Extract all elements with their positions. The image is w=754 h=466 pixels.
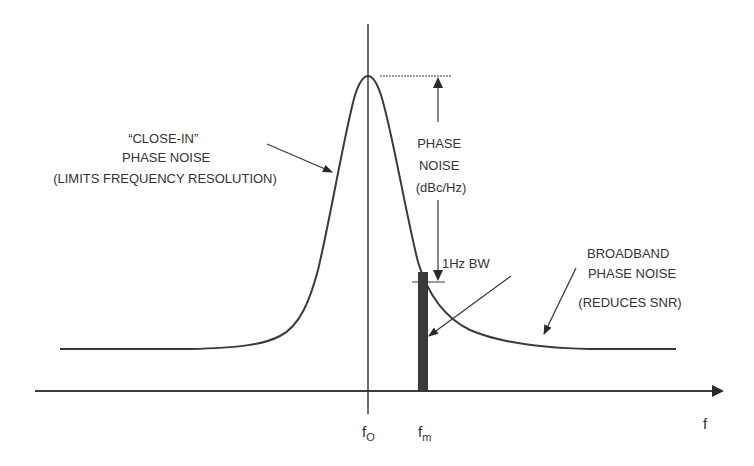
phase-noise-label: PHASE NOISE (dBc/Hz) [416, 136, 467, 195]
broadband-note: (REDUCES SNR) [578, 295, 681, 310]
offset-frequency-label: fm [418, 423, 431, 443]
frequency-axis-arrow-icon [712, 385, 724, 397]
arrow-down-icon [433, 270, 443, 281]
bandwidth-label: 1Hz BW [442, 256, 490, 271]
bandwidth-bar [418, 272, 428, 391]
broadband-label: BROADBAND PHASE NOISE [587, 246, 676, 281]
arrow-up-icon [433, 77, 443, 88]
carrier-frequency-label: fO [362, 423, 375, 443]
close-in-label: “CLOSE-IN” PHASE NOISE (LIMITS FREQUENCY… [53, 131, 277, 186]
broadband-pointer-arrow [544, 268, 576, 334]
close-in-pointer-arrow [267, 144, 332, 172]
phase-noise-diagram: PHASE NOISE (dBc/Hz) “CLOSE-IN” PHASE NO… [0, 0, 754, 466]
frequency-axis-label: f [703, 415, 708, 432]
